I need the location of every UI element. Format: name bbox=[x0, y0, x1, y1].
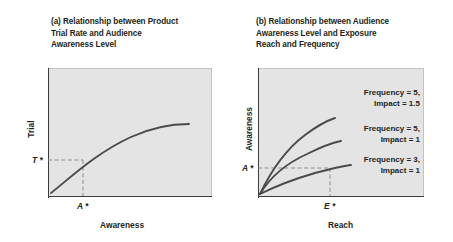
panel-a-y-tick-label: T * bbox=[32, 155, 43, 165]
panel-a-trial-vs-awareness: (a) Relationship between Product Trial R… bbox=[0, 0, 226, 242]
panel-b-annotation-freq5-impact1: Frequency = 5, Impact = 1 bbox=[335, 124, 420, 145]
panel-a-x-tick-label: A * bbox=[77, 201, 88, 211]
panel-b-curve-freq5-impact1-5 bbox=[260, 118, 335, 194]
panel-b-annotation-freq5-impact1-5: Frequency = 5, Impact = 1.5 bbox=[335, 88, 420, 109]
panel-b-curve-layer bbox=[227, 0, 453, 242]
panel-a-x-axis-label: Awareness bbox=[100, 220, 144, 230]
panel-b-x-axis-label: Reach bbox=[328, 220, 353, 230]
panel-b-y-tick-label: A * bbox=[242, 163, 253, 173]
panel-a-y-axis-label: Trial bbox=[26, 114, 36, 144]
panel-b-annotation-freq3-impact1: Frequency = 3, Impact = 1 bbox=[335, 155, 420, 176]
panel-b-awareness-vs-reach: (b) Relationship between Audience Awaren… bbox=[227, 0, 453, 242]
panel-b-x-tick-label: E * bbox=[324, 201, 335, 211]
panel-a-trial-curve bbox=[51, 124, 189, 193]
panel-b-y-axis-label: Awareness bbox=[244, 101, 254, 157]
